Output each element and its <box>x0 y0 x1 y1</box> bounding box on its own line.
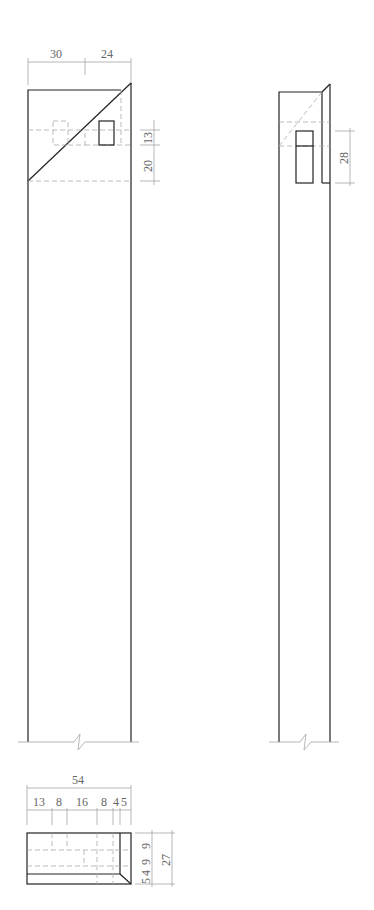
dim-20: 20 <box>141 160 155 172</box>
top-view: 54 13 8 16 8 4 5 9 9 4 5 27 <box>27 773 175 887</box>
dim-8: 8 <box>56 795 62 809</box>
dim-13: 13 <box>33 795 45 809</box>
dim-5b: 5 <box>139 878 153 884</box>
dim-28: 28 <box>337 152 351 164</box>
dim-9b: 9 <box>139 859 153 865</box>
dim-30: 30 <box>50 47 62 61</box>
dim-9a: 9 <box>139 843 153 849</box>
dim-8b: 8 <box>101 795 107 809</box>
front-view: 30 24 13 20 <box>18 47 160 750</box>
side-view: 28 <box>269 84 355 750</box>
dim-4: 4 <box>113 795 119 809</box>
technical-drawing: 30 24 13 20 <box>0 0 374 910</box>
dim-54: 54 <box>72 773 84 787</box>
dim-27: 27 <box>159 854 173 866</box>
dim-4b: 4 <box>139 870 153 876</box>
dim-16: 16 <box>76 795 88 809</box>
dim-24: 24 <box>101 47 113 61</box>
dim-13: 13 <box>141 132 155 144</box>
dim-5: 5 <box>121 795 127 809</box>
break-line <box>18 734 139 750</box>
